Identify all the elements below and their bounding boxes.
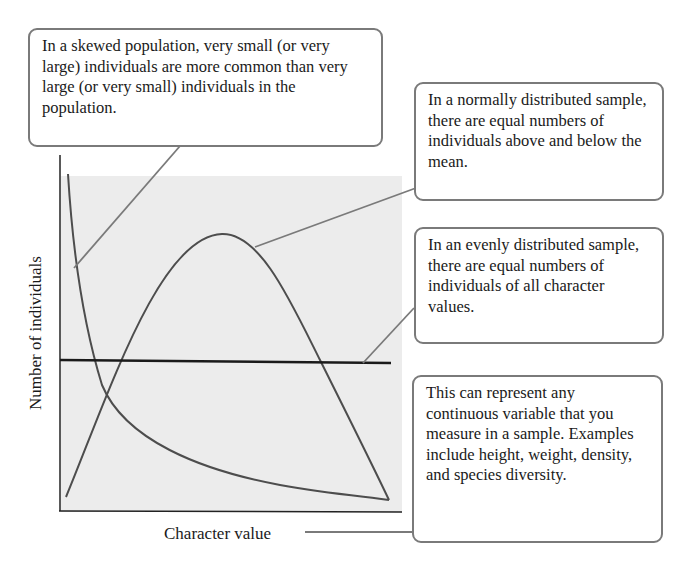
y-axis-label: Number of individuals — [26, 256, 46, 410]
callout-normal-text: In a normally distributed sample, there … — [428, 90, 647, 171]
callout-continuous-text: This can represent any continuous variab… — [426, 383, 634, 484]
callout-skewed: In a skewed population, very small (or v… — [28, 28, 383, 147]
callout-continuous: This can represent any continuous variab… — [412, 375, 663, 543]
plot-background — [61, 176, 402, 512]
x-axis-label: Character value — [164, 524, 271, 544]
x-axis — [59, 511, 402, 512]
callout-normal: In a normally distributed sample, there … — [414, 82, 664, 201]
callout-even: In an evenly distributed sample, there a… — [414, 227, 664, 344]
callout-even-text: In an evenly distributed sample, there a… — [428, 235, 639, 316]
callout-skewed-text: In a skewed population, very small (or v… — [42, 36, 348, 117]
